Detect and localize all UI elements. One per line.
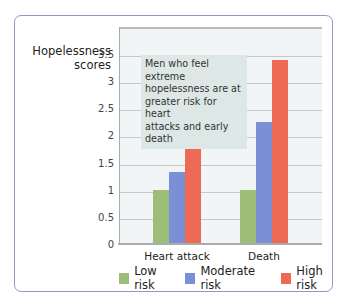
legend: Low risk Moderate risk High risk — [119, 264, 343, 292]
annotation-line-2: hopelessness are at — [145, 83, 243, 96]
legend-swatch-moderate-risk — [185, 273, 195, 284]
annotation-box: Men who feel extreme hopelessness are at… — [141, 55, 247, 149]
y-tick-label: 1 — [108, 184, 114, 195]
y-tick-label: 2 — [108, 130, 114, 141]
legend-label-moderate-risk: Moderate risk — [200, 264, 273, 292]
bar-death-low-risk — [240, 190, 256, 244]
legend-swatch-high-risk — [281, 273, 291, 284]
legend-label-high-risk: High risk — [296, 264, 343, 292]
legend-item-moderate-risk: Moderate risk — [185, 264, 273, 292]
legend-swatch-low-risk — [119, 273, 129, 284]
gridline — [120, 165, 322, 166]
bar-heart-attack-moderate-risk — [169, 172, 185, 244]
annotation-line-3: greater risk for heart — [145, 96, 243, 121]
annotation-line-1: Men who feel extreme — [145, 58, 243, 83]
gridline — [120, 219, 322, 220]
annotation-line-4: attacks and early death — [145, 121, 243, 146]
y-axis-title-line-2: scores — [32, 58, 111, 72]
y-axis-line — [119, 27, 120, 245]
y-tick-label: 0 — [108, 239, 114, 250]
y-tick-label: 0.5 — [98, 211, 114, 222]
y-tick-label: 2.5 — [98, 103, 114, 114]
legend-item-high-risk: High risk — [281, 264, 343, 292]
x-category-death: Death — [248, 250, 280, 262]
bar-death-moderate-risk — [256, 122, 272, 244]
bar-death-high-risk — [272, 60, 288, 244]
x-category-heart-attack: Heart attack — [144, 250, 210, 262]
x-axis-line — [118, 243, 322, 245]
y-tick-label: 3 — [108, 76, 114, 87]
bar-heart-attack-low-risk — [153, 190, 169, 244]
gridline — [120, 192, 322, 193]
y-tick-label: 1.5 — [98, 157, 114, 168]
y-tick-label: 3.5 — [98, 48, 114, 59]
legend-item-low-risk: Low risk — [119, 264, 177, 292]
legend-label-low-risk: Low risk — [134, 264, 177, 292]
